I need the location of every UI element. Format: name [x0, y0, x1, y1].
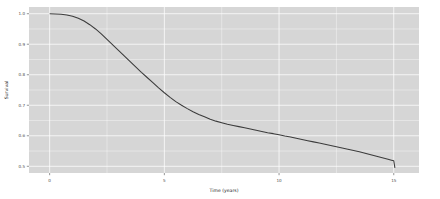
x-tick-label: 10 [276, 178, 282, 183]
y-tick-label: 0.7 [18, 103, 25, 108]
x-tick-label: 15 [391, 178, 397, 183]
y-tick-label: 0.6 [18, 133, 25, 138]
x-tick-label: 0 [48, 178, 51, 183]
x-tick-label: 5 [163, 178, 166, 183]
y-tick-label: 0.9 [18, 42, 25, 47]
y-tick-label: 0.8 [18, 72, 25, 77]
survival-curve-figure: 0.50.60.70.80.91.0 051015 Time (years) S… [0, 0, 440, 199]
y-axis-title: Survival [4, 81, 9, 100]
y-tick-label: 1.0 [18, 11, 25, 16]
y-tick-label: 0.5 [18, 164, 25, 169]
plot-svg: 0.50.60.70.80.91.0 051015 Time (years) S… [0, 0, 440, 199]
x-axis-title: Time (years) [209, 188, 239, 193]
